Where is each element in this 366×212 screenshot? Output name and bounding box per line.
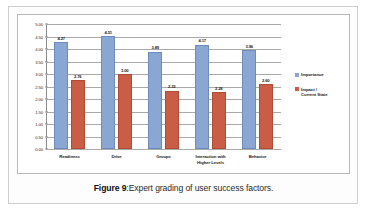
x-axis-label-line: Higher Levels xyxy=(197,160,224,165)
bar-value-label: 2.28 xyxy=(215,86,223,91)
bar-importance[interactable] xyxy=(195,45,209,149)
bar-impact[interactable] xyxy=(259,84,273,149)
bar-value-label: 4.17 xyxy=(198,38,206,43)
bar-impact[interactable] xyxy=(71,80,85,149)
bar-value-label: 3.89 xyxy=(151,45,159,50)
x-axis-label: Readiness xyxy=(59,154,80,160)
bar-impact[interactable] xyxy=(212,92,226,149)
bar-importance[interactable] xyxy=(101,36,115,149)
y-axis-tick-label: 5.00 xyxy=(35,22,43,27)
bars-layer: 4.272.764.513.003.892.334.172.283.962.60 xyxy=(46,24,281,149)
x-axis-label-line: Behavior xyxy=(249,154,267,159)
x-axis-label: Behavior xyxy=(249,154,267,160)
bar-impact[interactable] xyxy=(118,74,132,149)
chart-panel: 5.004.504.003.503.002.502.001.501.000.50… xyxy=(17,14,350,174)
figure-caption: Figure 9:Expert grading of user success … xyxy=(17,183,350,193)
legend-label-impact-line1: Impact / xyxy=(301,87,317,92)
bar-group: 3.892.33 xyxy=(140,24,187,149)
y-axis-tick-label: 4.00 xyxy=(35,47,43,52)
gridline xyxy=(46,149,281,150)
bar-importance[interactable] xyxy=(54,42,68,149)
legend-label-impact-line2: Current State xyxy=(301,92,328,97)
x-axis-category-labels: ReadinessDriveGroupsInteraction withHigh… xyxy=(46,154,281,176)
legend-label-impact: Impact / Current State xyxy=(301,87,328,98)
figure-caption-text: Expert grading of user success factors. xyxy=(129,183,274,193)
bar-group: 4.272.76 xyxy=(46,24,93,149)
y-axis-tick-label: 1.00 xyxy=(35,122,43,127)
bar-importance[interactable] xyxy=(148,52,162,149)
bar-group: 4.513.00 xyxy=(93,24,140,149)
y-axis-tick-labels: 5.004.504.003.503.002.502.001.501.000.50… xyxy=(20,24,45,149)
bar-value-label: 4.51 xyxy=(104,30,112,35)
bar-group: 4.172.28 xyxy=(187,24,234,149)
legend-swatch-icon-importance xyxy=(295,73,299,77)
bar-value-label: 4.27 xyxy=(57,36,65,41)
x-axis-label-line: Interaction with xyxy=(195,154,225,159)
y-axis-tick-label: 3.00 xyxy=(35,72,43,77)
figure-caption-label: Figure 9 xyxy=(94,183,127,193)
y-axis-tick-label: 2.50 xyxy=(35,84,43,89)
y-axis-tick-label: 3.50 xyxy=(35,59,43,64)
x-axis-label: Drive xyxy=(111,154,121,160)
bar-group: 3.962.60 xyxy=(234,24,281,149)
bar-impact[interactable] xyxy=(165,91,179,149)
y-axis-tick-label: 1.50 xyxy=(35,109,43,114)
y-axis-tick-label: 2.00 xyxy=(35,97,43,102)
bar-value-label: 2.76 xyxy=(74,74,82,79)
bar-value-label: 2.60 xyxy=(262,78,270,83)
y-axis-tick-label: 0.00 xyxy=(35,147,43,152)
x-axis-label: Groups xyxy=(156,154,171,160)
x-axis-label-line: Groups xyxy=(156,154,171,159)
bar-value-label: 3.00 xyxy=(121,68,129,73)
bar-value-label: 3.96 xyxy=(245,44,253,49)
figure-card: 5.004.504.003.503.002.502.001.501.000.50… xyxy=(8,6,358,204)
legend-label-importance: Importance xyxy=(301,72,324,78)
legend-item-impact: Impact / Current State xyxy=(295,87,349,98)
x-axis-label-line: Drive xyxy=(111,154,121,159)
plot-area: 4.272.764.513.003.892.334.172.283.962.60 xyxy=(46,24,281,149)
x-axis-label-line: Readiness xyxy=(59,154,80,159)
x-axis-label: Interaction withHigher Levels xyxy=(195,154,225,166)
legend-swatch-icon-impact xyxy=(295,87,299,91)
bar-value-label: 2.33 xyxy=(168,84,176,89)
y-axis-tick-label: 0.50 xyxy=(35,134,43,139)
bar-importance[interactable] xyxy=(242,50,256,149)
chart-legend: Importance Impact / Current State xyxy=(295,72,349,107)
y-axis-tick-label: 4.50 xyxy=(35,34,43,39)
legend-item-importance: Importance xyxy=(295,72,349,78)
